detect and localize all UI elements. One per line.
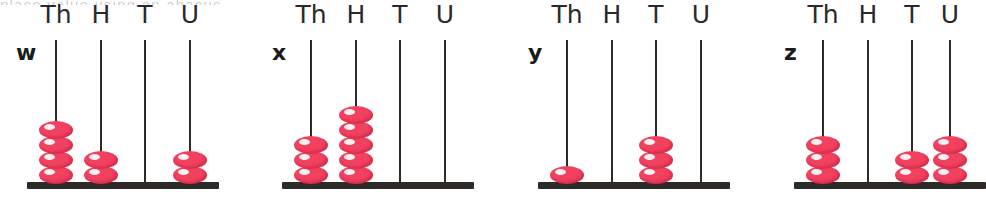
abacus-bead-w-Th-4[interactable] [39,121,73,139]
abacus-bead-y-Th-1[interactable] [550,166,584,184]
abacus-bead-w-U-2[interactable] [173,151,207,169]
abacus-bead-z-U-3[interactable] [933,136,967,154]
column-header-z-U: U [941,2,959,27]
abacus-bead-x-Th-3[interactable] [294,136,328,154]
abacus-rod-z-H[interactable] [867,40,869,182]
abacus-bead-z-Th-3[interactable] [806,136,840,154]
abacus-bead-y-T-3[interactable] [639,136,673,154]
column-header-z-Th: Th [807,2,838,27]
abacus-bead-w-H-2[interactable] [84,151,118,169]
column-header-z-T: T [904,2,919,27]
abacus-bead-z-T-2[interactable] [895,151,929,169]
column-header-z-H: H [859,2,878,27]
abacus-label-z: z [784,42,797,64]
abacus-bead-x-H-5[interactable] [339,106,373,124]
